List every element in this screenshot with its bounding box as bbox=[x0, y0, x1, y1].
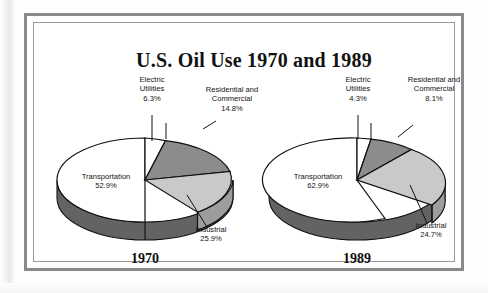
label-residential-commercial-1989: Residential and Commercial 8.1% bbox=[384, 75, 484, 103]
pie-chart-1989: Electric Utilities 4.3% Residential and … bbox=[252, 75, 462, 270]
year-label-1970: 1970 bbox=[40, 251, 250, 267]
figure-frame-outer: U.S. Oil Use 1970 and 1989 bbox=[24, 13, 464, 271]
page-background: U.S. Oil Use 1970 and 1989 bbox=[0, 0, 488, 293]
label-electric-utilities-1970: Electric Utilities 6.3% bbox=[112, 75, 192, 103]
leader-residential-1970 bbox=[203, 121, 216, 129]
label-transportation-1970: Transportation 52.9% bbox=[58, 172, 154, 191]
pie-chart-1970: Electric Utilities 6.3% Residential and … bbox=[40, 75, 250, 270]
figure-title: U.S. Oil Use 1970 and 1989 bbox=[34, 49, 474, 72]
leader-residential-1989 bbox=[398, 125, 413, 137]
year-label-1989: 1989 bbox=[252, 251, 462, 267]
label-industrial-1970: Industrial 25.9% bbox=[176, 225, 246, 244]
page-left-edge-shading bbox=[0, 0, 14, 293]
page-bottom-edge-shading bbox=[0, 283, 488, 293]
label-industrial-1989: Industrial 24.7% bbox=[400, 221, 462, 240]
label-transportation-1989: Transportation 62.9% bbox=[270, 172, 366, 191]
figure-frame-inner: U.S. Oil Use 1970 and 1989 bbox=[33, 22, 455, 262]
